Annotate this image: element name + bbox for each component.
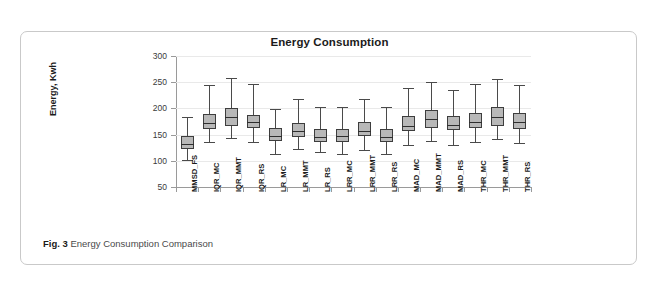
whisker-cap-upper (204, 85, 215, 86)
whisker-cap-lower (492, 139, 503, 140)
whisker-cap-upper (182, 117, 193, 118)
whisker-lower (298, 137, 299, 149)
whisker-cap-upper (226, 78, 237, 79)
y-tick-label: 50 (139, 182, 167, 192)
whisker-cap-lower (270, 154, 281, 155)
whisker-cap-upper (470, 84, 481, 85)
y-axis-title: Energy, Kwh (48, 49, 58, 129)
median-line (269, 136, 282, 137)
y-tick-label: 250 (139, 77, 167, 87)
y-tick-label: 200 (139, 103, 167, 113)
box-iqr (447, 116, 460, 131)
whisker-upper (342, 107, 343, 129)
x-tick-label: MAD_MC (412, 159, 421, 192)
whisker-upper (453, 90, 454, 116)
caption-text: Energy Consumption Comparison (70, 238, 213, 249)
x-tick-label: LR_MMT (301, 160, 310, 192)
x-tick-label: LR_RS (323, 167, 332, 192)
whisker-cap-lower (448, 145, 459, 146)
chart-title: Energy Consumption (21, 36, 638, 48)
whisker-lower (497, 126, 498, 139)
median-line (358, 131, 371, 132)
whisker-upper (209, 85, 210, 114)
whisker-lower (519, 129, 520, 143)
x-tick-label: THR_RS (523, 162, 532, 192)
x-tick-label: LR_MC (279, 166, 288, 192)
whisker-upper (320, 107, 321, 130)
box-iqr (203, 114, 216, 129)
box-iqr (358, 122, 371, 136)
box-iqr (181, 136, 194, 149)
whisker-upper (386, 107, 387, 129)
figure-caption: Fig. 3 Energy Consumption Comparison (43, 238, 213, 249)
whisker-cap-upper (248, 84, 259, 85)
x-tick-label: THR_MMT (501, 155, 510, 192)
whisker-upper (431, 82, 432, 110)
whisker-cap-lower (514, 143, 525, 144)
box-iqr (314, 129, 327, 142)
whisker-lower (364, 136, 365, 150)
median-line (292, 131, 305, 132)
median-line (203, 123, 216, 124)
median-line (380, 137, 393, 138)
whisker-cap-lower (337, 154, 348, 155)
x-tick-label: LRR_RS (390, 162, 399, 192)
box-iqr (402, 116, 415, 131)
y-tick-label: 150 (139, 130, 167, 140)
x-tick-label: MMSD_FS (190, 155, 199, 192)
whisker-lower (231, 126, 232, 138)
x-tick-label: IQR_MC (212, 162, 221, 192)
box-iqr (292, 123, 305, 137)
whisker-cap-upper (315, 107, 326, 108)
whisker-lower (275, 141, 276, 154)
whisker-upper (253, 84, 254, 115)
box-iqr (380, 129, 393, 142)
whisker-cap-upper (359, 99, 370, 100)
median-line (247, 122, 260, 123)
whisker-upper (364, 99, 365, 122)
caption-label: Fig. 3 (43, 238, 70, 249)
median-line (314, 137, 327, 138)
figure-card: Energy Consumption Energy, Kwh 501001502… (20, 31, 637, 265)
whisker-cap-upper (337, 107, 348, 108)
whisker-upper (231, 78, 232, 108)
whisker-cap-lower (426, 141, 437, 142)
whisker-cap-lower (403, 145, 414, 146)
median-line (491, 117, 504, 118)
whisker-lower (187, 149, 188, 160)
whisker-upper (408, 88, 409, 116)
median-line (447, 125, 460, 126)
y-tick-label: 100 (139, 156, 167, 166)
whisker-cap-lower (248, 142, 259, 143)
x-tick-mark (176, 188, 177, 192)
whisker-upper (519, 85, 520, 113)
whisker-lower (209, 129, 210, 142)
median-line (469, 122, 482, 123)
whisker-cap-lower (315, 152, 326, 153)
whisker-cap-lower (204, 142, 215, 143)
median-line (225, 117, 238, 118)
x-tick-label: MAD_MMT (434, 153, 443, 192)
whisker-upper (475, 84, 476, 113)
median-line (181, 144, 194, 145)
whisker-lower (342, 142, 343, 154)
x-tick-label: LRR_MC (345, 160, 354, 192)
whisker-lower (386, 142, 387, 154)
whisker-cap-lower (470, 142, 481, 143)
whisker-cap-upper (293, 99, 304, 100)
median-line (402, 126, 415, 127)
whisker-lower (431, 128, 432, 141)
whisker-lower (453, 130, 454, 144)
whisker-cap-lower (359, 150, 370, 151)
whisker-cap-upper (448, 90, 459, 91)
whisker-cap-upper (381, 107, 392, 108)
x-tick-label: MAD_RS (456, 160, 465, 192)
whisker-cap-upper (426, 82, 437, 83)
whisker-cap-upper (492, 79, 503, 80)
whisker-upper (497, 79, 498, 107)
box-iqr (469, 113, 482, 128)
chart-area: Energy Consumption Energy, Kwh 501001502… (21, 32, 638, 237)
whisker-upper (298, 99, 299, 122)
whisker-upper (275, 109, 276, 128)
whisker-lower (475, 128, 476, 142)
